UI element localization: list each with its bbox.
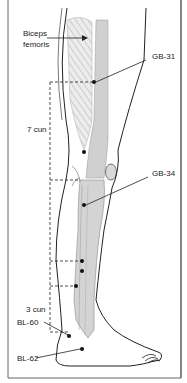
gb31-point — [92, 80, 96, 84]
label-gb31: GB-31 — [152, 52, 175, 61]
label-bl62: BL-62 — [17, 354, 38, 363]
label-biceps-femoris-1: Biceps — [23, 29, 47, 38]
label-7-cun: 7 cun — [27, 125, 47, 134]
gb34-point — [82, 203, 86, 207]
point-c — [74, 284, 78, 288]
label-3-cun: 3 cun — [26, 305, 46, 314]
bl60-point — [67, 334, 71, 338]
point-a — [80, 259, 84, 263]
label-gb34: GB-34 — [152, 169, 175, 178]
bl62-point — [80, 347, 84, 351]
biceps-femoris-muscle — [67, 17, 92, 150]
label-biceps-femoris-2: femoris — [23, 40, 49, 49]
knee-point — [82, 150, 86, 154]
label-bl60: BL-60 — [17, 318, 38, 327]
point-b — [80, 269, 84, 273]
patella — [106, 164, 117, 180]
leg-acupoint-diagram: Biceps femoris GB-31 7 cun GB-34 3 cun B… — [0, 0, 187, 383]
